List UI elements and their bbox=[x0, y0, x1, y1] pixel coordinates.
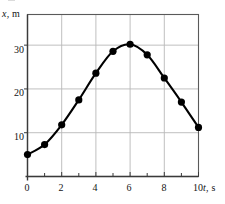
gridlines bbox=[28, 15, 199, 177]
plot-area bbox=[0, 0, 225, 204]
data-line bbox=[28, 44, 199, 154]
data-markers bbox=[24, 41, 202, 159]
plot-frame bbox=[26, 15, 199, 181]
chart-figure: x, m t, s 10 20 30 0 2 4 6 8 10 bbox=[0, 0, 225, 204]
